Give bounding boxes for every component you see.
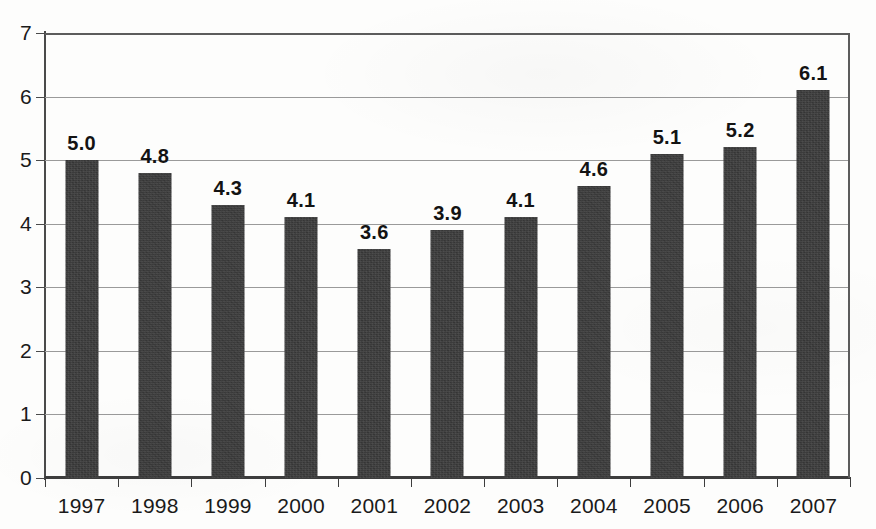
x-axis-tick	[777, 478, 778, 487]
y-axis-tick	[36, 478, 45, 479]
bar-group: 5.1	[630, 33, 703, 478]
x-axis-tick	[411, 478, 412, 487]
bar-group: 4.1	[265, 33, 338, 478]
bar-group: 3.6	[338, 33, 411, 478]
y-axis-label-5: 5	[20, 148, 32, 172]
bar	[211, 205, 244, 478]
bar-group: 4.6	[557, 33, 630, 478]
bar-value-label: 4.8	[140, 145, 169, 168]
y-axis-tick	[36, 351, 45, 352]
y-axis-tick	[36, 33, 45, 34]
bar-group: 4.1	[484, 33, 557, 478]
x-axis-tick	[338, 478, 339, 487]
bar	[651, 154, 684, 478]
plot-area: 01234567 5.019974.819984.319994.120003.6…	[45, 33, 850, 478]
y-axis-label-3: 3	[20, 275, 32, 299]
y-axis-label-1: 1	[20, 402, 32, 426]
y-axis-label-7: 7	[20, 21, 32, 45]
x-axis-label-2003: 2003	[497, 494, 545, 518]
x-axis-label-2002: 2002	[424, 494, 472, 518]
y-axis-tick	[36, 97, 45, 98]
x-axis-label-2006: 2006	[716, 494, 764, 518]
x-axis-tick	[630, 478, 631, 487]
bar	[724, 147, 757, 478]
bar-chart: 01234567 5.019974.819984.319994.120003.6…	[0, 0, 876, 529]
bar	[431, 230, 464, 478]
bar-group: 5.2	[704, 33, 777, 478]
bar	[797, 90, 830, 478]
x-axis-tick	[850, 478, 851, 487]
x-axis-tick	[704, 478, 705, 487]
x-axis-label-2000: 2000	[277, 494, 325, 518]
bar	[65, 160, 98, 478]
bar-value-label: 4.1	[506, 189, 535, 212]
x-axis-tick	[191, 478, 192, 487]
y-axis-label-6: 6	[20, 85, 32, 109]
bar-value-label: 5.1	[653, 126, 682, 149]
bar-group: 3.9	[411, 33, 484, 478]
x-axis-tick	[557, 478, 558, 487]
bar-group: 4.8	[118, 33, 191, 478]
x-axis-label-2007: 2007	[790, 494, 838, 518]
y-axis-tick	[36, 160, 45, 161]
bar	[358, 249, 391, 478]
y-axis-tick	[36, 224, 45, 225]
bar-value-label: 5.2	[726, 119, 755, 142]
x-axis-tick	[118, 478, 119, 487]
y-axis-tick	[36, 414, 45, 415]
bar-value-label: 4.6	[579, 158, 608, 181]
bar	[285, 217, 318, 478]
y-axis-label-2: 2	[20, 339, 32, 363]
bar	[504, 217, 537, 478]
y-axis-tick	[36, 287, 45, 288]
x-axis-label-1998: 1998	[131, 494, 179, 518]
bar-value-label: 4.3	[214, 177, 243, 200]
bar-value-label: 3.9	[433, 202, 462, 225]
bar	[577, 186, 610, 478]
y-axis-label-0: 0	[20, 466, 32, 490]
x-axis-label-1997: 1997	[58, 494, 106, 518]
x-axis-tick	[265, 478, 266, 487]
bar	[138, 173, 171, 478]
bar-value-label: 3.6	[360, 221, 389, 244]
bar-value-label: 4.1	[287, 189, 316, 212]
x-axis-label-1999: 1999	[204, 494, 252, 518]
bar-value-label: 6.1	[799, 62, 828, 85]
x-axis-label-2004: 2004	[570, 494, 618, 518]
bar-value-label: 5.0	[67, 132, 96, 155]
bar-group: 4.3	[191, 33, 264, 478]
x-axis-tick	[45, 478, 46, 487]
x-axis-label-2001: 2001	[351, 494, 399, 518]
x-axis-label-2005: 2005	[643, 494, 691, 518]
x-axis-tick	[484, 478, 485, 487]
bar-group: 6.1	[777, 33, 850, 478]
y-axis-label-4: 4	[20, 212, 32, 236]
bar-group: 5.0	[45, 33, 118, 478]
